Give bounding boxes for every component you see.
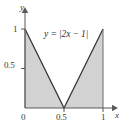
x-tick-label-0.5: 0.5 [56,113,67,122]
y-tick-label-0.5: 0.5 [4,61,15,70]
figure-container: y x 1 0.5 0 0.5 1 y = |2x − 1| [0,0,126,132]
curve-equation-annotation: y = |2x − 1| [44,30,88,40]
y-axis-label: y [20,3,24,12]
y-tick-label-1: 1 [13,25,17,34]
x-tick-label-1: 1 [101,113,105,122]
x-axis-label: x [115,111,119,120]
x-tick-label-0: 0 [21,113,25,122]
